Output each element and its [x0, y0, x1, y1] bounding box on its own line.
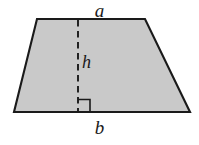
label-bottom-base-b: b — [0, 118, 199, 137]
label-height-h: h — [82, 53, 91, 71]
trapezoid-shape — [14, 19, 190, 112]
trapezoid-figure: a h b — [0, 0, 199, 145]
label-top-base-a: a — [0, 1, 199, 20]
